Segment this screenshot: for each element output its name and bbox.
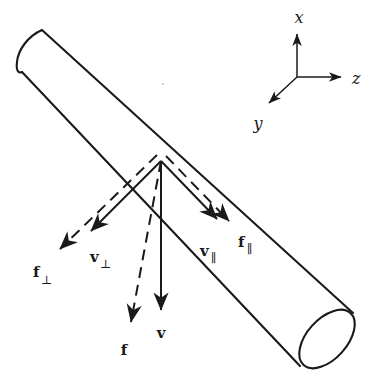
- vector-label-f-perp-base: f: [33, 263, 41, 281]
- vector-label-v-perp-base: v: [89, 248, 100, 266]
- coordinate-axes: [269, 34, 341, 103]
- vector-label-f-perp-subscript: ⊥: [41, 273, 52, 287]
- cylinder-upper-edge: [42, 30, 353, 313]
- vector-label-v-perp-subscript: ⊥: [100, 257, 111, 271]
- cylinder-top-cap: [17, 30, 42, 73]
- cylinder-rod: [17, 30, 366, 378]
- vector-label-v-par-base: v: [199, 242, 210, 260]
- vector-label-v-par-subscript: ∥: [211, 251, 217, 265]
- vector-label-f: f: [121, 341, 129, 359]
- axis-label-x: x: [294, 8, 303, 27]
- axis-label-z: z: [351, 69, 361, 88]
- vector-decomposition-diagram: v f v ⊥ f ⊥ v ∥ f ∥ x z y: [0, 0, 379, 381]
- vector-label-f-par: f ∥: [238, 233, 253, 256]
- vector-v-par-arrow: [161, 161, 217, 219]
- vector-f-par-arrow: [166, 156, 229, 221]
- vector-group: [60, 155, 229, 322]
- vector-label-v-perp: v ⊥: [89, 248, 111, 271]
- axis-label-y: y: [252, 114, 263, 133]
- vector-label-v: v: [156, 324, 167, 342]
- vector-label-f-par-base: f: [238, 233, 246, 251]
- vector-label-f-perp: f ⊥: [33, 263, 52, 287]
- vector-label-f-par-subscript: ∥: [247, 242, 253, 256]
- vector-f-perp-arrow: [60, 155, 157, 249]
- scan-speck: [162, 83, 164, 85]
- axis-y-arrow: [269, 77, 297, 103]
